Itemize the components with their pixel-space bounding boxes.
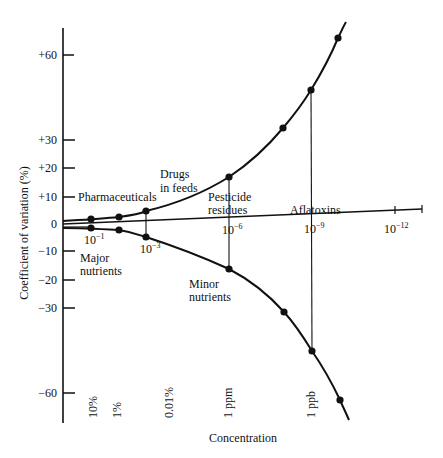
data-points (87, 34, 343, 403)
svg-text:−30: −30 (38, 301, 57, 315)
svg-text:1 ppm: 1 ppm (221, 387, 235, 418)
svg-text:−60: −60 (38, 386, 57, 400)
svg-text:10−3: 10−3 (140, 241, 161, 256)
label-pharmaceuticals: Pharmaceuticals (78, 190, 157, 204)
svg-text:1 ppb: 1 ppb (304, 391, 318, 418)
svg-text:+20: +20 (38, 161, 57, 175)
svg-text:10−1: 10−1 (84, 232, 105, 247)
svg-text:10%: 10% (86, 396, 100, 418)
label-drugs-1: Drugs (160, 167, 190, 181)
x-axis-title: Concentration (209, 431, 277, 445)
label-minor-1: Minor (189, 277, 219, 291)
svg-text:10−6: 10−6 (222, 222, 243, 237)
y-axis-title: Coefficient of variation (%) (17, 166, 31, 299)
label-drugs-2: in feeds (160, 181, 198, 195)
x-axis-exponent-labels: 10−1 10−3 10−6 10−9 10−12 (84, 221, 409, 256)
svg-text:+30: +30 (38, 133, 57, 147)
svg-text:10−9: 10−9 (304, 221, 325, 236)
label-major-1: Major (80, 251, 109, 265)
label-pesticide-2: residues (208, 203, 248, 217)
svg-text:+60: +60 (38, 48, 57, 62)
svg-text:−10: −10 (38, 244, 57, 258)
svg-text:10−12: 10−12 (384, 221, 409, 236)
svg-text:−20: −20 (38, 273, 57, 287)
label-pesticide-1: Pesticide (208, 190, 251, 204)
y-tick-labels: +60 +30 +20 +10 0 −10 −20 −30 −60 (38, 48, 57, 400)
svg-text:0: 0 (51, 217, 57, 231)
chart: +60 +30 +20 +10 0 −10 −20 −30 −60 Coeffi… (0, 0, 443, 458)
label-aflatoxins: Aflatoxins (290, 203, 341, 217)
concentration-labels: 10% 1% 0.01% 1 ppm 1 ppb (86, 387, 318, 418)
svg-text:1%: 1% (110, 402, 124, 418)
svg-text:0.01%: 0.01% (162, 387, 176, 418)
label-minor-2: nutrients (189, 290, 231, 304)
label-major-2: nutrients (80, 264, 122, 278)
svg-text:+10: +10 (38, 190, 57, 204)
